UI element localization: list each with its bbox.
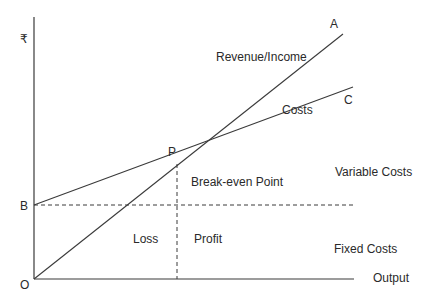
variable-costs-label: Variable Costs [335,165,412,179]
breakeven-label: Break-even Point [191,175,284,189]
x-axis-label: Output [373,271,410,285]
origin-label: O [20,278,29,292]
break-even-chart: ₹ O B P A C Revenue/Income Costs Break-e… [0,0,425,301]
c-label: C [344,93,353,107]
fixed-costs-label: Fixed Costs [334,242,397,256]
b-label: B [20,199,28,213]
revenue-line [34,34,343,279]
profit-label: Profit [194,232,223,246]
y-axis-label: ₹ [20,32,28,46]
costs-label: Costs [282,103,313,117]
p-label: P [168,145,176,159]
a-label: A [330,17,338,31]
loss-label: Loss [133,232,158,246]
revenue-label: Revenue/Income [216,50,307,64]
